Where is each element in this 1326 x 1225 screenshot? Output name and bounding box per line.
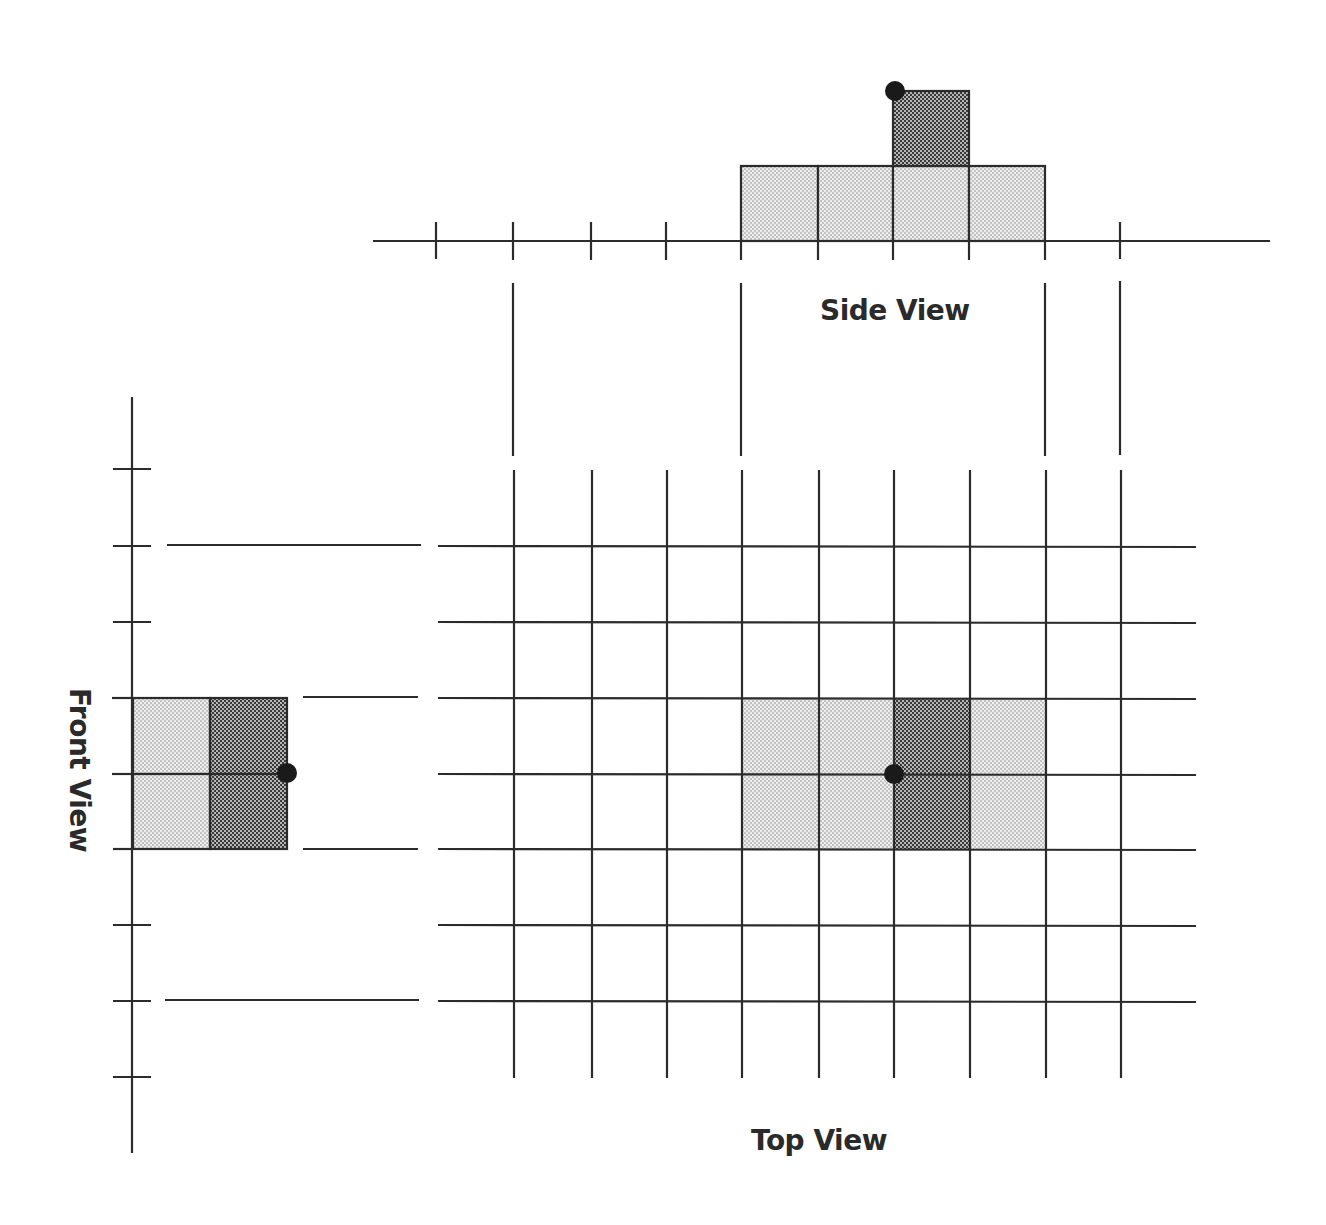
top-view <box>438 470 1196 1078</box>
front-view-marker-dot <box>277 763 297 783</box>
side-view-light-blocks <box>741 166 1045 241</box>
front-view-label: Front View <box>63 688 96 852</box>
front-view-dark-block-top <box>210 698 287 774</box>
side-view-marker-dot <box>885 81 905 101</box>
side-view-projection-lines <box>513 281 1120 456</box>
side-view-label: Side View <box>820 294 970 327</box>
top-view-label: Top View <box>751 1124 887 1157</box>
front-view-dark-block-bottom <box>210 774 287 849</box>
top-view-marker-dot <box>884 764 904 784</box>
top-view-horizontal-gridlines <box>438 546 1196 1002</box>
front-view-light-block-top <box>133 698 210 774</box>
side-view-dark-block <box>893 91 969 166</box>
front-view <box>112 397 421 1153</box>
side-view <box>373 91 1270 456</box>
front-view-light-block-bottom <box>133 774 210 849</box>
orthographic-projection-diagram <box>0 0 1326 1225</box>
